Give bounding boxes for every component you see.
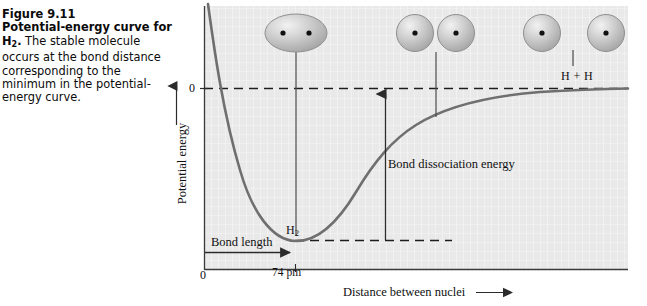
h2-molecule-electron-cloud xyxy=(265,14,327,52)
figure-container: Figure 9.11 Potential-energy curve for H… xyxy=(0,0,647,306)
atom-diagram-separated-h-atoms xyxy=(524,15,625,52)
y-axis-tick-label-zero: 0 xyxy=(189,81,195,96)
molecule-label-subscript: 2 xyxy=(295,228,299,238)
y-axis-title-container: Potential energy xyxy=(160,92,182,252)
nucleus-icon xyxy=(306,30,311,35)
nucleus-icon xyxy=(603,30,608,35)
y-axis-title: Potential energy xyxy=(175,84,190,244)
separated-atoms-label: H + H xyxy=(561,69,593,84)
bond-dissociation-energy-label: Bond dissociation energy xyxy=(388,157,515,172)
nucleus-icon xyxy=(453,30,458,35)
molecule-label-h2: H2 xyxy=(286,223,299,238)
molecule-label-text: H xyxy=(286,223,295,237)
nucleus-icon xyxy=(280,30,285,35)
atom-diagram-bonded-h2-molecule xyxy=(265,14,327,52)
x-axis-tick-label-bond-distance: 74 pm xyxy=(272,266,301,278)
nucleus-icon xyxy=(412,30,417,35)
plot-vector-layer xyxy=(0,0,647,306)
x-axis-title: Distance between nuclei xyxy=(343,285,465,300)
x-axis-tick-label-origin: 0 xyxy=(200,268,206,283)
atom-diagram-touching-h-atoms xyxy=(397,15,475,52)
nucleus-icon xyxy=(539,30,544,35)
bond-length-label: Bond length xyxy=(211,235,272,250)
